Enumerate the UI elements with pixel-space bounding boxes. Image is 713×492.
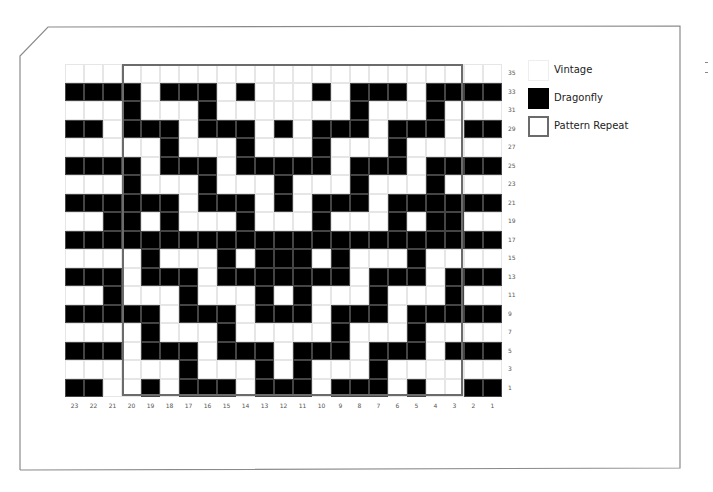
cell-vintage (483, 360, 502, 379)
cell-dragonfly (122, 231, 141, 250)
cell-dragonfly (312, 268, 331, 287)
cell-vintage (84, 323, 103, 342)
cell-vintage (103, 323, 122, 342)
cell-vintage (160, 323, 179, 342)
cell-vintage (198, 342, 217, 361)
cell-vintage (331, 360, 350, 379)
cell-dragonfly (198, 83, 217, 102)
cell-dragonfly (445, 157, 464, 176)
cell-dragonfly (312, 212, 331, 231)
column-label: 3 (445, 402, 464, 409)
column-label: 14 (236, 402, 255, 409)
cell-dragonfly (84, 268, 103, 287)
cell-dragonfly (331, 120, 350, 139)
cell-vintage (198, 323, 217, 342)
cell-vintage (369, 194, 388, 213)
cell-vintage (122, 268, 141, 287)
cell-dragonfly (103, 83, 122, 102)
cell-vintage (293, 83, 312, 102)
cell-vintage (179, 249, 198, 268)
cell-dragonfly (103, 342, 122, 361)
cell-vintage (217, 360, 236, 379)
cell-vintage (179, 138, 198, 157)
cell-dragonfly (198, 101, 217, 120)
row-label: 25 (508, 162, 522, 169)
cell-dragonfly (350, 194, 369, 213)
row-label: 35 (508, 69, 522, 76)
cell-dragonfly (293, 231, 312, 250)
cell-vintage (65, 360, 84, 379)
cell-dragonfly (293, 360, 312, 379)
legend-label-dragonfly: Dragonfly (554, 92, 603, 103)
cell-dragonfly (84, 231, 103, 250)
column-label: 5 (407, 402, 426, 409)
cell-vintage (464, 175, 483, 194)
cell-dragonfly (198, 157, 217, 176)
cell-dragonfly (331, 249, 350, 268)
cell-vintage (255, 101, 274, 120)
cell-dragonfly (312, 157, 331, 176)
cell-dragonfly (312, 342, 331, 361)
cell-vintage (84, 360, 103, 379)
cell-vintage (198, 64, 217, 83)
cell-dragonfly (160, 83, 179, 102)
column-label: 16 (198, 402, 217, 409)
cell-dragonfly (331, 323, 350, 342)
cell-dragonfly (122, 212, 141, 231)
cell-vintage (312, 249, 331, 268)
cell-vintage (198, 360, 217, 379)
cell-dragonfly (407, 379, 426, 398)
cell-dragonfly (445, 305, 464, 324)
cell-vintage (369, 249, 388, 268)
cell-dragonfly (179, 231, 198, 250)
cell-dragonfly (236, 231, 255, 250)
cell-vintage (483, 138, 502, 157)
cell-vintage (236, 379, 255, 398)
cell-vintage (122, 286, 141, 305)
cell-dragonfly (426, 305, 445, 324)
cell-vintage (464, 64, 483, 83)
cell-dragonfly (369, 360, 388, 379)
column-label: 18 (160, 402, 179, 409)
cell-dragonfly (141, 323, 160, 342)
cell-vintage (179, 120, 198, 139)
cell-vintage (331, 83, 350, 102)
cell-dragonfly (179, 360, 198, 379)
cell-dragonfly (103, 212, 122, 231)
cell-dragonfly (122, 157, 141, 176)
cell-dragonfly (141, 231, 160, 250)
cell-vintage (84, 138, 103, 157)
cell-dragonfly (426, 231, 445, 250)
cell-vintage (198, 286, 217, 305)
legend-label-vintage: Vintage (554, 64, 592, 75)
cell-dragonfly (483, 305, 502, 324)
cell-vintage (179, 323, 198, 342)
cell-dragonfly (198, 231, 217, 250)
cell-dragonfly (312, 138, 331, 157)
cell-dragonfly (141, 379, 160, 398)
dragonfly-swatch (528, 88, 549, 109)
cell-dragonfly (255, 231, 274, 250)
cell-dragonfly (293, 157, 312, 176)
cell-dragonfly (312, 120, 331, 139)
cell-vintage (369, 120, 388, 139)
cell-vintage (103, 64, 122, 83)
cell-dragonfly (331, 194, 350, 213)
cell-vintage (255, 194, 274, 213)
cell-dragonfly (350, 305, 369, 324)
cell-vintage (255, 64, 274, 83)
row-label: 9 (508, 310, 522, 317)
cell-dragonfly (407, 194, 426, 213)
row-label: 7 (508, 328, 522, 335)
cell-dragonfly (141, 120, 160, 139)
cell-dragonfly (483, 379, 502, 398)
legend-label-pattern-repeat: Pattern Repeat (554, 120, 628, 131)
cell-vintage (350, 323, 369, 342)
cell-dragonfly (369, 157, 388, 176)
cell-dragonfly (274, 157, 293, 176)
cell-vintage (103, 249, 122, 268)
column-label: 1 (483, 402, 502, 409)
cell-dragonfly (426, 120, 445, 139)
cell-vintage (160, 101, 179, 120)
cell-vintage (407, 212, 426, 231)
